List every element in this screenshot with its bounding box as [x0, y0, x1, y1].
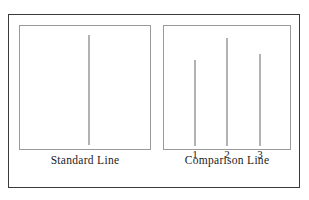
figure-container: Standard Line 1 2 3 Comparison Line	[0, 0, 309, 200]
standard-line-panel: Standard Line	[19, 25, 151, 165]
comparison-line-caption: Comparison Line	[163, 153, 291, 167]
standard-line-caption: Standard Line	[19, 153, 151, 167]
standard-line-box	[19, 25, 151, 150]
comparison-line-2	[226, 38, 228, 146]
comparison-line-panel: 1 2 3 Comparison Line	[163, 25, 291, 165]
comparison-line-box: 1 2 3	[163, 25, 291, 150]
comparison-line-3	[259, 54, 261, 146]
figure-outer-frame: Standard Line 1 2 3 Comparison Line	[8, 14, 300, 188]
comparison-line-1	[194, 60, 196, 146]
standard-line	[88, 35, 90, 145]
